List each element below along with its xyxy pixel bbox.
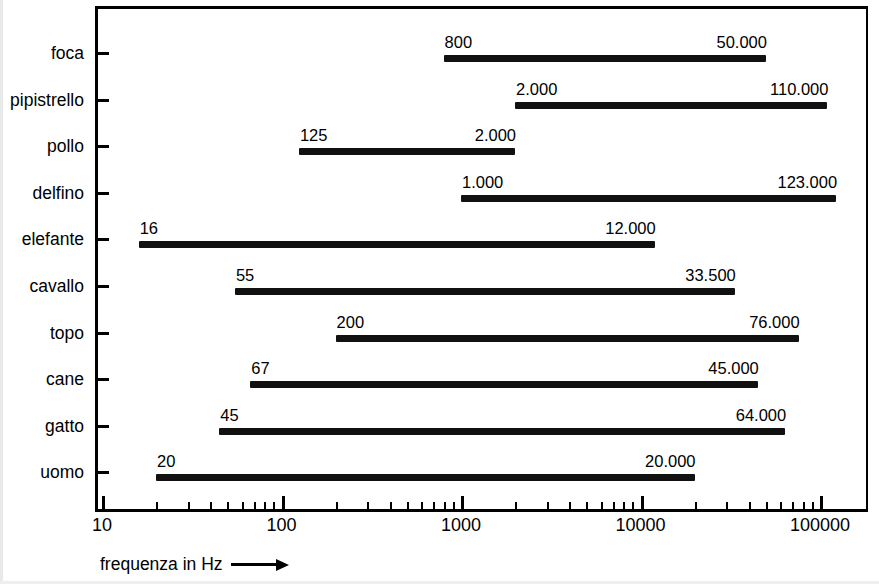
range-max-label-delfino: 123.000 xyxy=(777,174,837,191)
range-bar-cavallo xyxy=(235,288,735,295)
y-axis-label-pollo: pollo xyxy=(0,137,84,155)
x-axis-tick-label-100: 100 xyxy=(266,515,296,535)
range-min-label-cavallo: 55 xyxy=(236,267,254,284)
x-axis-tick-300 xyxy=(367,502,369,510)
range-min-label-gatto: 45 xyxy=(220,407,238,424)
range-min-label-pollo: 125 xyxy=(300,127,328,144)
x-axis-tick-10 xyxy=(102,496,105,510)
range-bar-uomo xyxy=(156,474,695,481)
range-bar-delfino xyxy=(461,195,836,202)
range-max-label-cane: 45.000 xyxy=(708,360,758,377)
x-axis-tick-700 xyxy=(433,502,435,510)
x-axis-tick-6000 xyxy=(601,502,603,510)
range-max-label-pipistrello: 110.000 xyxy=(770,81,828,98)
right-arrow-icon xyxy=(231,558,289,570)
range-min-label-pipistrello: 2.000 xyxy=(516,81,557,98)
x-axis-tick-400 xyxy=(390,502,392,510)
range-bar-pipistrello xyxy=(515,102,827,109)
x-axis-tick-label-1000: 1000 xyxy=(441,515,481,535)
range-max-label-gatto: 64.000 xyxy=(736,407,786,424)
x-axis-tick-9000 xyxy=(632,502,634,510)
y-axis-label-foca: foca xyxy=(0,44,84,62)
x-axis-tick-30000 xyxy=(726,502,728,510)
x-axis-tick-600 xyxy=(421,502,423,510)
x-axis-tick-70000 xyxy=(792,502,794,510)
y-axis-tick-topo xyxy=(95,332,109,335)
x-axis-tick-30 xyxy=(188,502,190,510)
x-axis-tick-8000 xyxy=(623,502,625,510)
range-min-label-delfino: 1.000 xyxy=(462,174,503,191)
y-axis-tick-cane xyxy=(95,378,109,381)
x-axis-tick-100 xyxy=(282,496,285,510)
range-min-label-topo: 200 xyxy=(337,314,365,331)
y-axis-tick-pollo xyxy=(95,145,109,148)
range-bar-elefante xyxy=(139,241,655,248)
x-axis-caption: frequenza in Hz xyxy=(100,554,289,574)
y-axis-label-elefante: elefante xyxy=(0,230,84,248)
x-axis-tick-100000 xyxy=(820,496,823,510)
x-axis-tick-60 xyxy=(242,502,244,510)
range-max-label-pollo: 2.000 xyxy=(475,127,516,144)
x-axis-tick-90 xyxy=(273,502,275,510)
range-bar-cane xyxy=(250,381,757,388)
y-axis-tick-delfino xyxy=(95,192,109,195)
y-axis-label-delfino: delfino xyxy=(0,184,84,202)
y-axis-label-pipistrello: pipistrello xyxy=(0,91,84,109)
x-axis-tick-3000 xyxy=(547,502,549,510)
x-axis-tick-40 xyxy=(210,502,212,510)
y-axis-label-uomo: uomo xyxy=(0,463,84,481)
x-axis-tick-50 xyxy=(227,502,229,510)
range-min-label-cane: 67 xyxy=(251,360,269,377)
y-axis-tick-uomo xyxy=(95,471,109,474)
x-axis-tick-900 xyxy=(453,502,455,510)
x-axis-tick-200 xyxy=(336,502,338,510)
x-axis-tick-70 xyxy=(254,502,256,510)
x-axis-tick-7000 xyxy=(613,502,615,510)
range-bar-gatto xyxy=(219,428,785,435)
x-axis-tick-label-10: 10 xyxy=(92,515,112,535)
x-axis-tick-500 xyxy=(407,502,409,510)
x-axis-tick-20 xyxy=(156,502,158,510)
x-axis-caption-text: frequenza in Hz xyxy=(100,554,223,574)
range-max-label-uomo: 20.000 xyxy=(645,453,695,470)
x-axis-tick-20000 xyxy=(695,502,697,510)
y-axis-tick-pipistrello xyxy=(95,99,109,102)
y-axis-label-cane: cane xyxy=(0,370,84,388)
x-axis-tick-40000 xyxy=(749,502,751,510)
range-bar-pollo xyxy=(299,148,515,155)
range-max-label-cavallo: 33.500 xyxy=(685,267,735,284)
range-bar-foca xyxy=(444,55,766,62)
x-axis-tick-50000 xyxy=(766,502,768,510)
frequency-range-chart: focapipistrellopollodelfinoelefantecaval… xyxy=(0,0,879,584)
y-axis-tick-gatto xyxy=(95,425,109,428)
y-axis-label-topo: topo xyxy=(0,324,84,342)
x-axis-tick-2000 xyxy=(515,502,517,510)
range-min-label-foca: 800 xyxy=(445,34,473,51)
x-axis-tick-4000 xyxy=(569,502,571,510)
range-min-label-uomo: 20 xyxy=(157,453,175,470)
range-max-label-foca: 50.000 xyxy=(716,34,766,51)
range-bar-topo xyxy=(336,335,799,342)
x-axis-tick-label-10000: 10000 xyxy=(615,515,665,535)
y-axis-tick-cavallo xyxy=(95,285,109,288)
plot-area xyxy=(95,6,868,511)
x-axis-tick-10000 xyxy=(641,496,644,510)
x-axis-tick-80 xyxy=(264,502,266,510)
x-axis-tick-label-100000: 100000 xyxy=(790,515,850,535)
x-axis-tick-800 xyxy=(444,502,446,510)
x-axis-tick-60000 xyxy=(780,502,782,510)
y-axis-tick-elefante xyxy=(95,238,109,241)
x-axis-tick-90000 xyxy=(812,502,814,510)
y-axis-tick-foca xyxy=(95,52,109,55)
x-axis-tick-1000 xyxy=(461,496,464,510)
range-max-label-topo: 76.000 xyxy=(749,314,799,331)
range-max-label-elefante: 12.000 xyxy=(605,220,655,237)
range-min-label-elefante: 16 xyxy=(140,220,158,237)
x-axis-tick-5000 xyxy=(586,502,588,510)
y-axis-label-gatto: gatto xyxy=(0,417,84,435)
y-axis-label-cavallo: cavallo xyxy=(0,277,84,295)
x-axis-tick-80000 xyxy=(803,502,805,510)
